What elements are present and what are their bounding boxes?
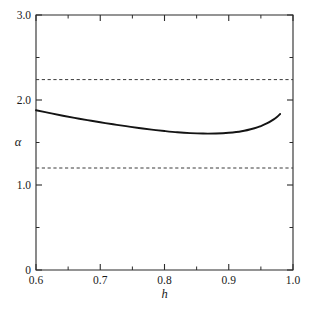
y-axis-title: α bbox=[15, 135, 22, 149]
chart-background bbox=[0, 0, 313, 309]
y-tick-label: 0 bbox=[25, 264, 31, 276]
x-tick-label: 1.0 bbox=[286, 274, 301, 286]
y-tick-label: 1.0 bbox=[17, 179, 32, 191]
x-tick-label: 0.7 bbox=[93, 274, 108, 286]
x-tick-label: 0.6 bbox=[29, 274, 44, 286]
x-axis-title: h bbox=[161, 287, 167, 301]
alpha-vs-h-chart: 0.60.70.80.91.0 01.02.03.0 h α bbox=[0, 0, 313, 309]
y-tick-label: 3.0 bbox=[17, 9, 32, 21]
x-tick-label: 0.8 bbox=[157, 274, 172, 286]
x-tick-label: 0.9 bbox=[222, 274, 237, 286]
y-tick-label: 2.0 bbox=[17, 94, 32, 106]
figure-container: 0.60.70.80.91.0 01.02.03.0 h α bbox=[0, 0, 313, 309]
